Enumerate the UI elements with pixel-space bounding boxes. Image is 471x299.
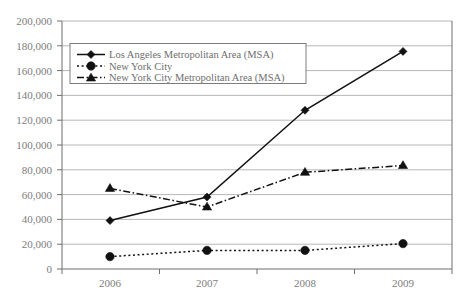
data-point-marker-triangle <box>105 184 114 192</box>
legend-marker-circle <box>87 62 95 70</box>
x-axis-labels: 2006 2007 2008 2009 <box>99 277 415 289</box>
chart-canvas: 200,000 180,000 160,000 140,000 120,000 … <box>0 0 471 299</box>
y-tick-label: 100,000 <box>16 139 52 151</box>
y-tick-label: 20,000 <box>22 238 53 250</box>
y-tick-label: 60,000 <box>22 189 53 201</box>
x-tick-label-2008: 2008 <box>294 277 317 289</box>
legend-label-la-msa: Los Angeles Metropolitan Area (MSA) <box>109 49 274 61</box>
x-tick-label-2006: 2006 <box>99 277 122 289</box>
y-axis-labels: 200,000 180,000 160,000 140,000 120,000 … <box>16 15 52 275</box>
legend-entry-nyc[interactable]: New York City <box>77 61 173 72</box>
series-line-nyc <box>110 244 403 257</box>
y-tick-label: 120,000 <box>16 114 52 126</box>
data-point-marker-circle <box>399 239 407 247</box>
series-line-nyc-msa <box>110 166 403 208</box>
data-point-marker-diamond <box>399 47 407 55</box>
data-point-marker-circle <box>106 252 114 260</box>
legend-label-nyc: New York City <box>109 61 173 72</box>
y-tick-label: 160,000 <box>16 65 52 77</box>
series-new-york-city-msa <box>105 161 407 210</box>
x-tick-label-2007: 2007 <box>196 277 219 289</box>
data-point-marker-circle <box>203 246 211 254</box>
y-tickmarks <box>57 21 62 269</box>
y-tick-label: 200,000 <box>16 15 52 27</box>
y-tick-label: 80,000 <box>22 164 53 176</box>
x-tickmarks <box>62 269 452 274</box>
series-new-york-city <box>106 239 407 260</box>
y-tick-label: 180,000 <box>16 40 52 52</box>
line-chart: 200,000 180,000 160,000 140,000 120,000 … <box>0 0 471 299</box>
legend-label-nyc-msa: New York City Metropolitan Area (MSA) <box>109 72 285 84</box>
data-point-marker-circle <box>301 246 309 254</box>
y-tick-label: 0 <box>47 263 53 275</box>
legend-entry-nyc-msa[interactable]: New York City Metropolitan Area (MSA) <box>77 72 285 84</box>
data-point-marker-triangle <box>398 161 407 169</box>
data-point-marker-diamond <box>106 217 114 225</box>
x-tick-label-2009: 2009 <box>392 277 415 289</box>
chart-legend[interactable]: Los Angeles Metropolitan Area (MSA) New … <box>70 44 306 85</box>
y-tick-label: 140,000 <box>16 89 52 101</box>
y-tick-label: 40,000 <box>22 213 53 225</box>
